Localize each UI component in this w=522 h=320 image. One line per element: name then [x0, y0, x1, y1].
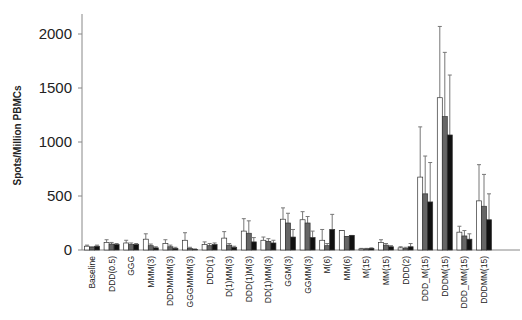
bar-group — [241, 219, 256, 250]
x-tick-label: GGGMMM(3) — [185, 256, 195, 308]
bar — [241, 231, 246, 250]
bar — [246, 233, 251, 250]
bar — [261, 240, 266, 250]
bar — [330, 229, 335, 250]
bar — [129, 245, 134, 250]
bar-group — [418, 127, 433, 250]
bar — [90, 247, 95, 250]
bar — [188, 248, 193, 250]
bar — [222, 238, 227, 250]
x-tick-label: GGM(3) — [283, 256, 293, 287]
bar — [320, 240, 325, 250]
bar — [300, 220, 305, 250]
x-axis-labels: BaselineDDD(0.5)GGGMMM(3)DDDMMM(3)GGGMMM… — [87, 256, 489, 309]
bar-group — [222, 232, 237, 250]
bar — [447, 135, 452, 250]
x-tick-label: MMM(3) — [146, 256, 156, 288]
bar — [379, 242, 384, 250]
bar — [212, 245, 217, 250]
bar — [251, 242, 256, 250]
bar — [193, 249, 198, 250]
bar — [143, 239, 148, 250]
x-tick-label: DDDM(15) — [440, 256, 450, 297]
bar-group — [379, 240, 394, 250]
bar — [286, 223, 291, 250]
bar — [482, 206, 487, 250]
y-axis-ticks: 0500100015002000 — [39, 25, 82, 258]
bar-group — [339, 231, 354, 250]
bar — [418, 177, 423, 250]
bar — [364, 249, 369, 250]
bar — [462, 236, 467, 250]
bar — [349, 235, 354, 250]
y-tick-label: 2000 — [39, 25, 72, 42]
bar — [95, 246, 100, 250]
bars — [85, 26, 492, 250]
bar — [369, 248, 374, 250]
y-tick-label: 0 — [64, 241, 72, 258]
bar — [359, 249, 364, 250]
bar — [148, 246, 153, 250]
bar — [183, 240, 188, 250]
bar — [428, 202, 433, 250]
bar — [403, 248, 408, 250]
bar-group — [183, 233, 198, 250]
bar — [442, 117, 447, 250]
y-tick-label: 1500 — [39, 79, 72, 96]
axes — [82, 14, 520, 250]
bar — [207, 246, 212, 250]
x-tick-label: DDD(0.5) — [107, 256, 117, 292]
y-axis-label: Spots/Million PBMCs — [12, 81, 23, 191]
bar-group — [437, 26, 452, 250]
bar — [305, 223, 310, 250]
bar — [168, 247, 173, 250]
x-tick-label: M(6) — [322, 256, 332, 274]
bar — [163, 244, 168, 250]
x-tick-label: GGMM(3) — [303, 256, 313, 294]
bar — [487, 220, 492, 250]
bar — [344, 237, 349, 251]
bar — [467, 239, 472, 250]
bar — [389, 247, 394, 250]
bar — [114, 245, 119, 250]
bar — [457, 232, 462, 250]
bar — [232, 247, 237, 250]
y-tick-label: 500 — [47, 187, 72, 204]
bar — [271, 243, 276, 250]
bar — [124, 243, 129, 250]
bar-group — [320, 214, 335, 250]
x-tick-label: MM(6) — [342, 256, 352, 281]
x-tick-label: DDD_M(15) — [420, 256, 430, 302]
bar — [109, 244, 114, 250]
x-tick-label: M(15) — [361, 256, 371, 278]
bar-group — [398, 244, 413, 250]
bar-group — [143, 234, 158, 250]
bar-group — [281, 208, 296, 250]
bar-group — [457, 226, 472, 250]
bar — [85, 246, 90, 250]
bar — [153, 248, 158, 250]
bar — [202, 245, 207, 250]
x-tick-label: DD(1)MM(3) — [263, 256, 273, 303]
bar — [173, 248, 178, 250]
x-tick-label: MM(15) — [381, 256, 391, 285]
bar — [134, 245, 139, 250]
bar-chart: 0500100015002000 BaselineDDD(0.5)GGGMMM(… — [0, 0, 522, 320]
bar — [423, 194, 428, 250]
bar-group — [477, 165, 492, 250]
bar-group — [124, 240, 139, 250]
bar — [384, 245, 389, 250]
bar — [325, 246, 330, 250]
bar — [266, 241, 271, 250]
bar — [339, 231, 344, 250]
x-tick-label: GGG — [126, 256, 136, 276]
x-tick-label: Baseline — [87, 256, 97, 289]
bar — [281, 219, 286, 250]
bar — [398, 248, 403, 250]
x-tick-label: DDDMM(15) — [479, 256, 489, 304]
x-tick-label: DDD(1) — [205, 256, 215, 285]
bar-group — [300, 212, 315, 250]
x-tick-label: DDD(2) — [401, 256, 411, 285]
bar-group — [359, 248, 374, 250]
bar-group — [261, 237, 276, 250]
